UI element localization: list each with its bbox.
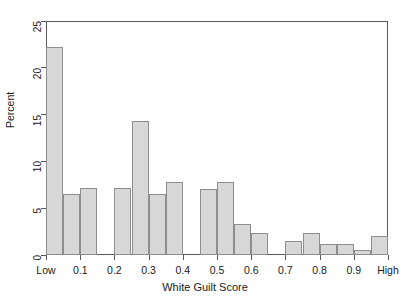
y-tick-label: 15 [33, 115, 43, 126]
x-tick-label: 0.5 [210, 264, 225, 276]
histogram-bar [200, 189, 217, 255]
y-axis-title: Percent [4, 92, 16, 128]
histogram-bar [303, 233, 320, 255]
x-tick-label: 0.4 [175, 264, 190, 276]
x-tick-label: 0.8 [312, 264, 327, 276]
y-tick-label: 5 [33, 208, 43, 214]
x-tick-label: Low [36, 264, 55, 276]
histogram-bar [371, 236, 388, 255]
x-tick-mark [183, 255, 184, 260]
histogram-bar [149, 194, 166, 255]
x-tick-label: 0.7 [278, 264, 293, 276]
x-tick-label: 0.2 [107, 264, 122, 276]
x-tick-mark [114, 255, 115, 260]
x-tick-label: 0.9 [346, 264, 361, 276]
histogram-bar [46, 47, 63, 255]
y-tick-label: 10 [33, 161, 43, 172]
x-tick-mark [285, 255, 286, 260]
histogram-bar [132, 121, 149, 255]
x-tick-label: 0.6 [244, 264, 259, 276]
x-tick-label: 0.3 [141, 264, 156, 276]
x-tick-mark [80, 255, 81, 260]
x-tick-label: 0.1 [73, 264, 88, 276]
y-tick-label: 20 [33, 68, 43, 79]
histogram-bar [80, 188, 97, 255]
x-tick-mark [320, 255, 321, 260]
x-tick-mark [251, 255, 252, 260]
histogram-chart: 0510152025 Percent Low0.10.20.30.40.50.6… [0, 0, 410, 307]
histogram-bar [114, 188, 131, 255]
histogram-bar [320, 244, 337, 255]
y-tick-label: 25 [33, 21, 43, 32]
x-tick-mark [388, 255, 389, 260]
x-tick-mark [354, 255, 355, 260]
histogram-bar [251, 233, 268, 255]
x-tick-mark [149, 255, 150, 260]
x-tick-label: High [377, 264, 399, 276]
histogram-bar [63, 194, 80, 255]
histogram-bar [285, 241, 302, 255]
histogram-bar [234, 224, 251, 255]
bars-layer [46, 21, 388, 255]
x-tick-mark [46, 255, 47, 260]
x-axis-title: White Guilt Score [0, 281, 410, 293]
histogram-bar [337, 244, 354, 255]
x-tick-mark [217, 255, 218, 260]
histogram-bar [217, 182, 234, 255]
histogram-bar [166, 182, 183, 255]
